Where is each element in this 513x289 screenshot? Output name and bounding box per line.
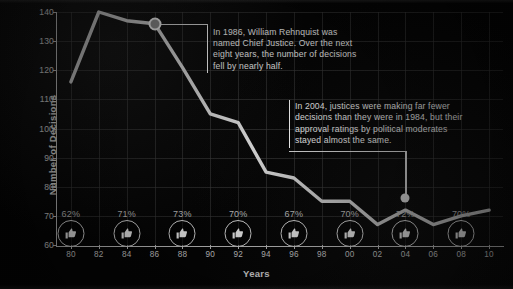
x-axis-title: Years <box>0 268 513 279</box>
approval-marker: 71% <box>113 209 140 247</box>
x-tick-label: 84 <box>122 250 132 259</box>
thumbs-up-icon <box>280 220 307 247</box>
y-tick-label: 100 <box>39 124 54 134</box>
thumbs-up-icon <box>392 220 419 247</box>
annotation-anchor-dot-1986 <box>148 17 161 30</box>
y-tick-label: 130 <box>39 36 54 46</box>
x-tick-mark <box>489 245 490 249</box>
approval-marker: 70% <box>225 209 252 247</box>
annotation-rehnquist-1986: In 1986, William Rehnquist was named Chi… <box>207 26 363 74</box>
thumbs-up-icon <box>113 220 140 247</box>
annotation-moderates-2004: In 2004, justices were making far fewer … <box>289 100 463 148</box>
x-tick-label: 08 <box>456 250 466 259</box>
x-tick-mark <box>322 245 323 249</box>
approval-marker: 62% <box>57 209 84 247</box>
x-tick-label: 96 <box>289 250 299 259</box>
x-tick-mark <box>99 245 100 249</box>
thumbs-up-icon <box>225 220 252 247</box>
approval-marker: 70% <box>336 209 363 247</box>
x-tick-label: 86 <box>150 250 160 259</box>
annotation-leader-line-2004 <box>405 151 406 198</box>
x-tick-label: 82 <box>94 250 104 259</box>
x-tick-mark <box>155 245 156 249</box>
x-tick-mark <box>266 245 267 249</box>
x-tick-label: 80 <box>66 250 76 259</box>
x-tick-label: 04 <box>401 250 411 259</box>
x-tick-label: 00 <box>345 250 355 259</box>
chart-canvas: Number of Decisions Years 60708090100110… <box>0 0 513 289</box>
y-tick-label: 140 <box>39 7 54 17</box>
x-tick-mark <box>210 245 211 249</box>
y-tick-mark <box>53 245 57 246</box>
annotation-leader-elbow-2004 <box>289 151 405 152</box>
x-tick-mark <box>378 245 379 249</box>
approval-percent-label: 72% <box>392 209 419 219</box>
approval-percent-label: 70% <box>225 209 252 219</box>
x-tick-label: 88 <box>178 250 188 259</box>
approval-percent-label: 62% <box>57 209 84 219</box>
annotation-leader-line <box>155 24 207 25</box>
approval-percent-label: 73% <box>169 209 196 219</box>
y-tick-label: 120 <box>39 65 54 75</box>
thumbs-up-icon <box>336 220 363 247</box>
approval-marker: 73% <box>169 209 196 247</box>
annotation-anchor-dot-2004 <box>401 194 410 203</box>
x-tick-label: 98 <box>317 250 327 259</box>
x-tick-label: 10 <box>484 250 494 259</box>
approval-marker: 67% <box>280 209 307 247</box>
approval-percent-label: 70% <box>336 209 363 219</box>
approval-percent-label: 71% <box>113 209 140 219</box>
x-tick-label: 06 <box>429 250 439 259</box>
approval-percent-label: 70% <box>448 209 475 219</box>
top-edge-band <box>0 0 513 3</box>
x-tick-label: 92 <box>233 250 243 259</box>
thumbs-up-icon <box>169 220 196 247</box>
thumbs-up-icon <box>57 220 84 247</box>
plot-area: 60708090100110120130140 8082848688909294… <box>57 12 503 245</box>
thumbs-up-icon <box>448 220 475 247</box>
x-tick-label: 94 <box>261 250 271 259</box>
approval-percent-label: 67% <box>280 209 307 219</box>
x-tick-label: 90 <box>206 250 216 259</box>
approval-marker: 70% <box>448 209 475 247</box>
x-tick-label: 02 <box>373 250 383 259</box>
x-tick-mark <box>433 245 434 249</box>
y-tick-label: 110 <box>40 94 54 104</box>
approval-marker: 72% <box>392 209 419 247</box>
bottom-edge-band <box>0 285 513 289</box>
